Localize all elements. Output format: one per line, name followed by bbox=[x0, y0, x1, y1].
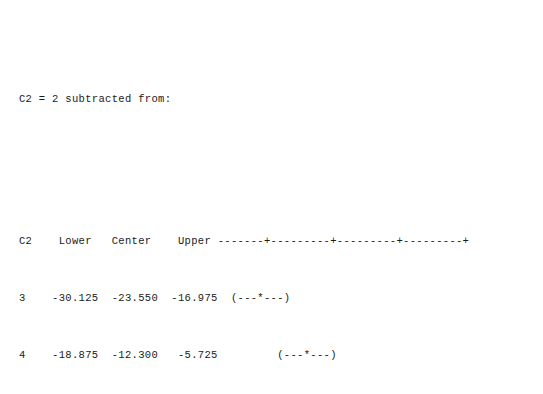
axis-line: -------+---------+---------+---------+ bbox=[218, 235, 470, 247]
table-row: 4 -18.875 -12.300 -5.725 (---*---) bbox=[19, 348, 509, 362]
spacer bbox=[19, 135, 509, 149]
axis-top: -------+---------+---------+---------+ bbox=[211, 235, 469, 247]
block-title: C2 = 2 subtracted from: bbox=[19, 92, 509, 106]
spacer bbox=[19, 177, 509, 191]
comparison-block: C2 = 2 subtracted from: C2 Lower Center … bbox=[19, 64, 509, 394]
row-values: 3 -30.125 -23.550 -16.975 bbox=[19, 292, 218, 304]
confidence-interval-marker: (---*---) bbox=[277, 349, 337, 361]
table-header-labels: C2 Lower Center Upper bbox=[19, 235, 211, 247]
row-values: 4 -18.875 -12.300 -5.725 bbox=[19, 349, 218, 361]
minitab-output: C2 = 2 subtracted from: C2 Lower Center … bbox=[19, 7, 509, 394]
interval-cell: (---*---) bbox=[218, 349, 337, 361]
confidence-interval-marker: (---*---) bbox=[231, 292, 291, 304]
table-row: 3 -30.125 -23.550 -16.975 (---*---) bbox=[19, 291, 509, 305]
table-header-row: C2 Lower Center Upper -------+---------+… bbox=[19, 234, 509, 248]
interval-cell: (---*---) bbox=[218, 292, 291, 304]
